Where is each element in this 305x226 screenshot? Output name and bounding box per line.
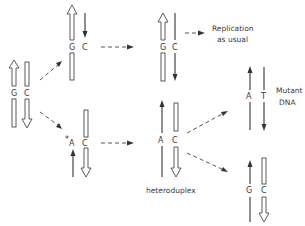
dashed-arrow-icon (40, 112, 62, 129)
dashed-arrow-icon (185, 31, 205, 36)
base-label: C (172, 136, 178, 145)
restored-duplex: G C (246, 158, 269, 222)
dashed-arrow-icon (187, 111, 228, 133)
mutant-duplex: A T Mutant DNA (246, 66, 303, 131)
normal-replicated-duplex: G C (158, 13, 178, 81)
replication-label: as usual (217, 35, 248, 44)
normal-copy-duplex: G C (67, 5, 88, 80)
mutant-caption: Mutant (276, 86, 303, 95)
thin-arrow-down-icon (83, 13, 88, 38)
base-label: C (24, 89, 30, 98)
base-label: G (69, 43, 75, 52)
dna-mismatch-diagram: G C G C * A (0, 0, 305, 226)
thin-arrow-up-icon (71, 149, 76, 177)
base-label: C (261, 186, 267, 195)
base-label: A (246, 92, 252, 101)
base-label: C (82, 139, 88, 148)
base-label: T (260, 92, 266, 101)
base-label: G (160, 43, 166, 52)
original-duplex: G C (9, 60, 32, 128)
base-label: A (158, 136, 164, 145)
base-label: G (246, 186, 252, 195)
base-label: G (11, 89, 17, 98)
base-label: C (172, 43, 178, 52)
dashed-arrow-icon (101, 45, 134, 50)
heteroduplex-caption: heteroduplex (146, 186, 196, 195)
mispaired-copy-duplex: * A C (65, 110, 91, 177)
base-label: C (82, 43, 88, 52)
dashed-arrow-icon (187, 153, 228, 172)
mutant-caption: DNA (279, 98, 296, 107)
dashed-arrow-icon (40, 61, 62, 80)
heteroduplex-duplex: A C heteroduplex (146, 100, 196, 195)
base-label: A (69, 139, 75, 148)
dashed-arrow-icon (101, 141, 134, 146)
replication-label: Replication (212, 24, 254, 33)
